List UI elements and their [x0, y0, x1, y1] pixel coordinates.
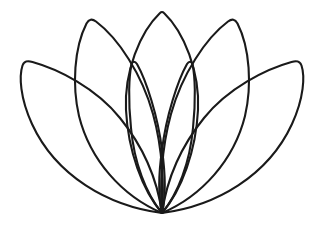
artwork-canvas: [0, 0, 319, 235]
lotus-flower-drawing: [0, 0, 319, 235]
